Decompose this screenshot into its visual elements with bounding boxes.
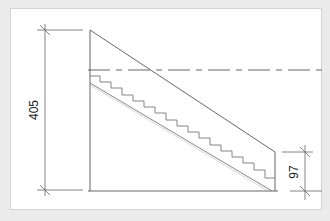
height-dimension xyxy=(37,24,83,196)
stair-soffit-inner-line xyxy=(90,85,268,191)
offset-dimension-label: 97 xyxy=(287,165,301,179)
stair-soffit-line xyxy=(90,83,272,191)
stair-drawing: 405 97 xyxy=(0,0,330,221)
stair-outline xyxy=(88,30,278,191)
height-dimension-label: 405 xyxy=(27,100,41,120)
